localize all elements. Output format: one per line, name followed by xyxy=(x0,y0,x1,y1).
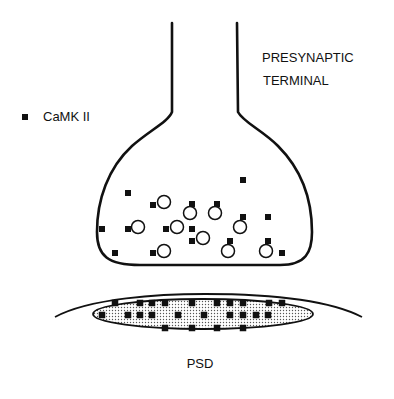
camk-ii-square-icon xyxy=(99,312,106,319)
camk-ii-square-icon xyxy=(149,300,156,307)
vesicle-circle-icon xyxy=(222,245,235,258)
camk-ii-square-icon xyxy=(201,312,208,319)
vesicle-circle-icon xyxy=(171,221,184,234)
vesicle-circle-icon xyxy=(184,207,197,220)
camk-ii-square-icon xyxy=(149,312,156,319)
camk-ii-square-icon xyxy=(227,312,234,319)
camk-ii-square-icon xyxy=(214,325,221,332)
camk-ii-square-icon xyxy=(162,325,169,332)
camk-ii-square-icon xyxy=(137,300,144,307)
camk-ii-square-icon xyxy=(125,226,131,232)
camk-ii-square-icon xyxy=(189,226,195,232)
camk-ii-square-icon xyxy=(175,312,182,319)
camk-ii-square-icon xyxy=(265,312,272,319)
camk-ii-square-icon xyxy=(137,312,144,319)
camk-ii-square-icon xyxy=(240,312,247,319)
camk-ii-square-icon xyxy=(279,300,286,307)
legend-square-icon xyxy=(22,114,28,120)
presynaptic-label-line1: PRESYNAPTIC xyxy=(262,50,354,65)
camk-ii-square-icon xyxy=(99,226,105,232)
vesicle-circle-icon xyxy=(260,245,273,258)
camk-ii-square-icon xyxy=(266,300,273,307)
camk-ii-square-icon xyxy=(240,300,247,307)
camk-ii-square-icon xyxy=(150,250,156,256)
psd-label: PSD xyxy=(187,356,214,371)
vesicle-circle-icon xyxy=(197,232,210,245)
synapse-diagram: CaMK II PRESYNAPTIC TERMINAL PSD xyxy=(0,0,394,399)
camk-ii-square-icon xyxy=(227,300,234,307)
vesicle-circle-icon xyxy=(158,245,171,258)
camk-ii-square-icon xyxy=(240,177,246,183)
vesicle-circle-icon xyxy=(209,207,222,220)
camk-ii-square-icon xyxy=(150,202,156,208)
legend-label: CaMK II xyxy=(43,109,90,124)
camk-ii-square-icon xyxy=(214,300,221,307)
camk-ii-square-icon xyxy=(125,312,132,319)
camk-ii-square-icon xyxy=(125,190,131,196)
camk-ii-square-icon xyxy=(279,250,285,256)
camk-ii-square-icon xyxy=(162,300,169,307)
camk-ii-square-icon xyxy=(253,312,260,319)
camk-ii-square-icon xyxy=(265,238,271,244)
camk-ii-square-icon xyxy=(240,325,247,332)
vesicle-circle-icon xyxy=(132,221,145,234)
camk-ii-square-icon xyxy=(112,300,119,307)
vesicle-circle-icon xyxy=(158,196,171,209)
camk-ii-square-icon xyxy=(240,214,246,220)
camk-ii-square-icon xyxy=(112,250,118,256)
camk-ii-square-icon xyxy=(189,238,195,244)
camk-ii-square-icon xyxy=(189,300,196,307)
camk-ii-square-icon xyxy=(163,226,169,232)
camk-ii-square-icon xyxy=(189,325,196,332)
vesicle-circle-icon xyxy=(234,221,247,234)
camk-ii-square-icon xyxy=(227,238,233,244)
camk-ii-square-icon xyxy=(214,201,220,207)
camk-ii-square-icon xyxy=(189,201,195,207)
presynaptic-label-line2: TERMINAL xyxy=(263,73,329,88)
camk-ii-square-icon xyxy=(265,214,271,220)
